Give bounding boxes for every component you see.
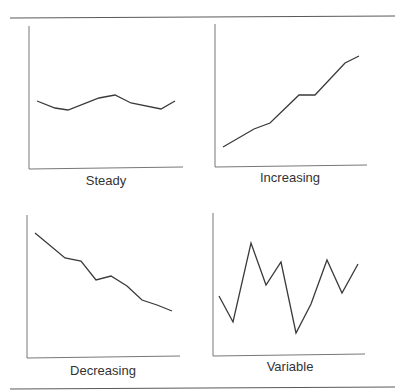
panel-steady: Steady [29,26,183,188]
increasing-axes [215,24,367,167]
panel-variable: Variable [213,213,365,374]
figure: Steady Increasing Decreasing Variable [0,0,405,391]
variable-axes [213,213,365,356]
variable-line [219,243,358,333]
bottom-rule [10,387,395,389]
decreasing-line [35,233,172,311]
variable-label: Variable [267,359,314,374]
increasing-label: Increasing [260,170,320,185]
decreasing-label: Decreasing [70,363,136,378]
top-rule [10,16,395,18]
steady-line [37,95,175,110]
decreasing-axes [27,215,180,358]
increasing-line [223,56,359,147]
panel-decreasing: Decreasing [27,215,180,378]
steady-label: Steady [86,173,127,188]
steady-axes [29,26,183,169]
panel-increasing: Increasing [215,24,367,185]
